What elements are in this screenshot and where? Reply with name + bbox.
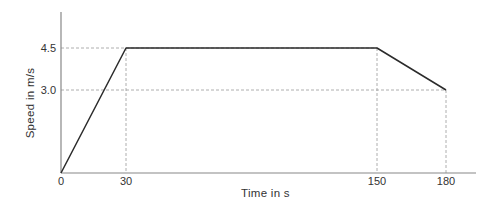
speed-time-chart: 4.5 3.0 0 30 150 180 Time in s Speed in … <box>0 0 498 207</box>
x-tick-180: 180 <box>437 175 455 187</box>
y-axis-label: Speed in m/s <box>24 68 36 139</box>
x-tick-0: 0 <box>58 175 64 187</box>
y-tick-4.5: 4.5 <box>41 42 56 54</box>
x-tick-150: 150 <box>368 175 386 187</box>
x-tick-30: 30 <box>120 175 132 187</box>
guide-lines <box>61 48 446 173</box>
speed-line <box>61 48 446 173</box>
y-tick-3.0: 3.0 <box>41 84 56 96</box>
x-axis-label: Time in s <box>241 187 290 199</box>
